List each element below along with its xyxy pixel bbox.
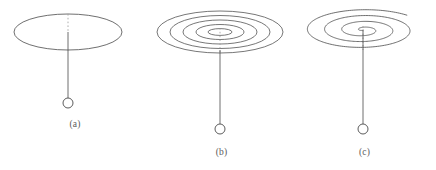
- panel-caption-a: (a): [0, 119, 150, 129]
- panel-c-diagram: [293, 0, 436, 170]
- panel-c: (c): [293, 0, 436, 170]
- panel-caption-b: (b): [150, 147, 293, 157]
- pendulum-bob-a: [63, 98, 73, 108]
- orbit-open-spiral-c: [307, 10, 410, 48]
- pendulum-bob-b: [215, 124, 225, 134]
- panel-caption-c: (c): [293, 147, 436, 157]
- panel-b-diagram: [150, 0, 293, 170]
- panel-b: (b): [150, 0, 293, 170]
- pendulum-bob-c: [358, 124, 368, 134]
- pendulum-trajectory-figure: (a) (b): [0, 0, 436, 170]
- panel-a: (a): [0, 0, 150, 170]
- panel-a-diagram: [0, 0, 150, 170]
